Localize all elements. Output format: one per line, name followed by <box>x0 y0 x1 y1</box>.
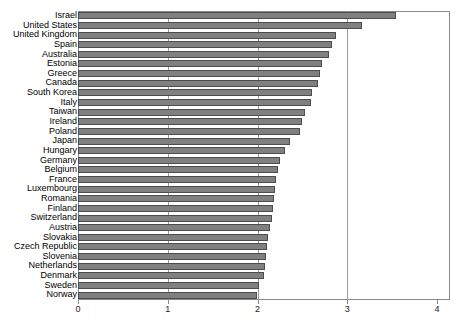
bar-australia <box>78 51 329 58</box>
bar-germany <box>78 157 280 164</box>
bar-hungary <box>78 147 285 154</box>
bar-czech-republic <box>78 243 267 250</box>
bar-ireland <box>78 118 302 125</box>
bar-austria <box>78 224 270 231</box>
bar-greece <box>78 70 320 77</box>
bar-slovakia <box>78 234 268 241</box>
bar-row: Norway <box>0 290 465 300</box>
category-label-norway: Norway <box>46 290 77 300</box>
bar-romania <box>78 195 274 202</box>
bar-norway <box>78 292 257 299</box>
bar-poland <box>78 128 300 135</box>
bar-taiwan <box>78 109 305 116</box>
bar-slovenia <box>78 253 266 260</box>
bar-japan <box>78 138 290 145</box>
category-label-hungary: Hungary <box>43 146 77 156</box>
x-tick-label: 2 <box>248 304 268 315</box>
bar-italy <box>78 99 311 106</box>
x-tick-label: 1 <box>158 304 178 315</box>
x-tick-label: 3 <box>337 304 357 315</box>
horizontal-bar-chart: 01234 IsraelUnited StatesUnited KingdomS… <box>0 0 465 323</box>
bar-sweden <box>78 282 259 289</box>
bar-finland <box>78 205 273 212</box>
x-tick-label: 4 <box>427 304 447 315</box>
bar-netherlands <box>78 263 265 270</box>
bar-france <box>78 176 276 183</box>
bar-switzerland <box>78 215 272 222</box>
bar-united-states <box>78 22 362 29</box>
bar-estonia <box>78 60 322 67</box>
bar-israel <box>78 12 396 19</box>
bar-denmark <box>78 272 264 279</box>
bar-united-kingdom <box>78 32 336 39</box>
x-tick-label: 0 <box>68 304 88 315</box>
bar-belgium <box>78 166 278 173</box>
bar-canada <box>78 80 318 87</box>
bar-south-korea <box>78 89 312 96</box>
bar-luxembourg <box>78 186 275 193</box>
bar-rows: IsraelUnited StatesUnited KingdomSpainAu… <box>0 11 465 300</box>
bar-spain <box>78 41 332 48</box>
